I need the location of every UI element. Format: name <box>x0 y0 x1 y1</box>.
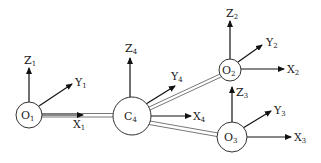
frame-o1: O1 Z1 Y1 X1 <box>16 54 87 132</box>
x3-label: X3 <box>294 131 306 145</box>
y-axis-arrow-icon <box>238 45 262 62</box>
y4-label: Y4 <box>170 70 183 84</box>
coordinate-frames-diagram: O1 Z1 Y1 X1 C4 Z4 Y4 X4 O2 Z2 Y2 X2 O3 Z… <box>0 0 321 163</box>
y3-label: Y3 <box>273 104 286 118</box>
x4-label: X4 <box>193 110 206 124</box>
frame-o2: O2 Z2 Y2 X2 <box>219 7 299 81</box>
x1-label: X1 <box>73 118 85 132</box>
link-c4-o2 <box>149 74 221 110</box>
y2-label: Y2 <box>265 36 278 50</box>
z1-label: Z1 <box>24 54 36 68</box>
link-c4-o3 <box>149 121 218 137</box>
frame-o3: O3 Z3 Y3 X3 <box>217 86 306 152</box>
y-axis-arrow-icon <box>39 84 72 106</box>
z4-label: Z4 <box>125 42 138 56</box>
y1-label: Y1 <box>74 76 87 90</box>
z2-label: Z2 <box>226 7 238 21</box>
x2-label: X2 <box>287 63 299 77</box>
y-axis-arrow-icon <box>243 111 271 128</box>
frame-c4: C4 Z4 Y4 X4 <box>113 42 206 135</box>
z3-label: Z3 <box>236 86 248 100</box>
